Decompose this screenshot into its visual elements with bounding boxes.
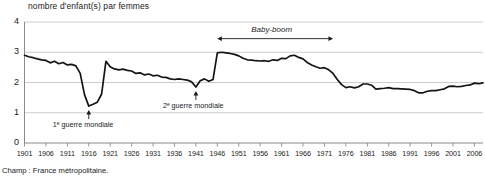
ww2-arrow (194, 91, 199, 100)
plot-area: 01234 1901190619111916192119261931193619… (0, 0, 485, 160)
y-tick-label-0: 0 (3, 137, 19, 147)
annotation-ww2-label: 2ᵉ guerre mondiale (163, 101, 224, 110)
fertility-line-series (25, 52, 484, 106)
y-tick-label-3: 3 (3, 46, 19, 56)
babyboom-arrow (217, 36, 333, 41)
gridlines (24, 22, 483, 113)
x-tick-label-2006: 2006 (460, 149, 485, 158)
fertility-rate-chart-figure: nombre d'enfant(s) par femmes (0, 0, 485, 179)
annotation-babyboom-label: Baby-boom (251, 25, 292, 34)
footer-source-note: Champ : France métropolitaine. (2, 166, 108, 175)
x-axis-ticks (25, 143, 475, 147)
y-tick-label-4: 4 (3, 16, 19, 26)
annotation-ww1-label: 1ᵉ guerre mondiale (53, 120, 114, 129)
ww1-arrow (86, 110, 91, 119)
y-tick-label-1: 1 (3, 107, 19, 117)
chart-canvas (0, 0, 485, 160)
y-tick-label-2: 2 (3, 77, 19, 87)
